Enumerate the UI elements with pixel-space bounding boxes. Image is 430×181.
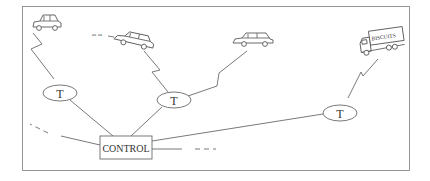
transceiver-t1: T: [43, 85, 77, 101]
network-diagram: T T T CONTROL oe oe: [0, 0, 430, 181]
diagram-frame: [23, 7, 410, 171]
wire-control-left: [61, 136, 100, 145]
wire-t3-control: [152, 114, 323, 141]
control-label: CONTROL: [102, 143, 149, 154]
truck-icon: BISCUITS: [359, 27, 406, 56]
radio-link-truck-t3: [348, 59, 378, 98]
transceiver-label: T: [170, 94, 178, 108]
transceiver-t2: T: [157, 92, 191, 108]
wire-t2-control: [131, 107, 162, 136]
radio-link-car1-t1: [31, 33, 54, 79]
car-icon: [113, 29, 155, 51]
exhaust-line: [108, 36, 114, 37]
exhaust-marks: oe oe: [92, 32, 103, 37]
car-icon: [33, 15, 61, 30]
transceiver-label: T: [56, 87, 64, 101]
radio-link-car2-t2: [144, 51, 168, 92]
transceiver-t3: T: [323, 105, 357, 121]
wire-t1-control: [70, 100, 113, 136]
wire-control-left-dashed: [30, 124, 48, 133]
control-station: CONTROL: [100, 136, 152, 159]
transceiver-label: T: [336, 107, 344, 121]
car-icon: [233, 33, 273, 46]
radio-link-car3-t2: [188, 51, 247, 96]
